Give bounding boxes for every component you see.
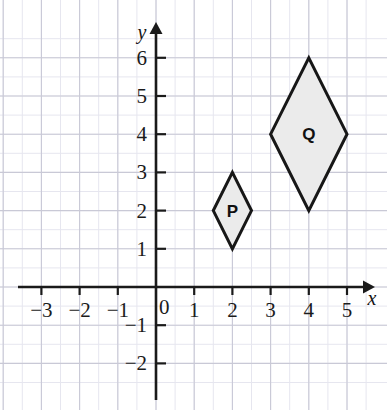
coordinate-grid-figure: −3−2−1012345−2−1123456xyPQ (0, 0, 387, 410)
x-tick-label-1: 1 (189, 300, 200, 321)
y-tick-label-6: 6 (137, 47, 148, 68)
x-tick-label-3: 3 (265, 300, 276, 321)
x-tick-label--2: −2 (68, 300, 90, 321)
y-tick-label-3: 3 (137, 162, 148, 183)
y-tick-label-1: 1 (137, 238, 148, 259)
shape-label-q: Q (302, 126, 315, 143)
y-tick-label-4: 4 (137, 124, 148, 145)
x-axis-label: x (368, 288, 377, 308)
minor-gridlines (0, 0, 387, 410)
x-tick-label-4: 4 (304, 300, 315, 321)
y-axis-arrowhead (150, 22, 163, 34)
y-tick-label-2: 2 (137, 200, 148, 221)
y-axis-label: y (138, 22, 147, 42)
x-tick-label-5: 5 (342, 300, 353, 321)
y-tick-label--1: −1 (125, 315, 147, 336)
y-tick-label-5: 5 (137, 86, 148, 107)
x-tick-label-0: 0 (159, 297, 170, 318)
x-tick-label--3: −3 (30, 300, 52, 321)
graph-canvas (0, 0, 387, 410)
y-tick-label--2: −2 (125, 353, 147, 374)
x-tick-label-2: 2 (227, 300, 238, 321)
shape-label-p: P (227, 202, 238, 219)
major-gridlines (0, 0, 387, 410)
